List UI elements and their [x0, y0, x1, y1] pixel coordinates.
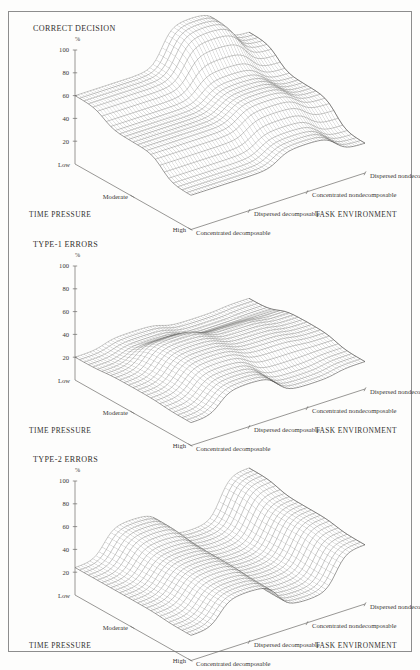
y-axis-tick-label: 80 — [62, 69, 69, 76]
y-axis-tick-label: 60 — [62, 92, 69, 99]
figure-frame: CORRECT DECISION % 10080604020LowModerat… — [8, 11, 412, 652]
y-axis-tick-label: 80 — [62, 500, 69, 507]
y-axis-tick-label: 40 — [62, 115, 69, 122]
time-pressure-axis-title: TIME PRESSURE — [29, 426, 91, 435]
y-axis-tick-label: 100 — [59, 46, 70, 53]
task-environment-tick-label: Concentrated nondecomposable — [312, 407, 396, 414]
chart-panel-correct-decision: CORRECT DECISION % 10080604020LowModerat… — [9, 12, 413, 227]
task-environment-tick-label: Concentrated nondecomposable — [312, 191, 396, 198]
time-pressure-axis-title: TIME PRESSURE — [29, 641, 91, 650]
surface-plot: 10080604020LowModerateHighConcentrated d… — [9, 12, 413, 227]
time-pressure-axis-title: TIME PRESSURE — [29, 210, 91, 219]
task-environment-tick-label: Dispersed nondecomposable — [370, 388, 420, 395]
y-axis-tick-label: 20 — [62, 354, 69, 361]
time-pressure-tick-label: Low — [58, 592, 70, 599]
y-axis-tick-label: 40 — [62, 331, 69, 338]
time-pressure-tick-label: Low — [58, 377, 70, 384]
y-axis-tick-label: 60 — [62, 523, 69, 530]
time-pressure-tick-label: Moderate — [103, 409, 128, 416]
time-pressure-tick-label: High — [173, 657, 187, 664]
task-environment-tick-label: Concentrated nondecomposable — [312, 622, 396, 629]
task-environment-tick-label: Dispersed nondecomposable — [370, 172, 420, 179]
task-environment-tick-label: Dispersed decomposable — [254, 641, 320, 648]
y-axis-tick-label: 60 — [62, 308, 69, 315]
y-axis-tick-label: 20 — [62, 138, 69, 145]
task-environment-axis-title: TASK ENVIRONMENT — [315, 426, 397, 435]
y-axis-tick-label: 100 — [59, 477, 70, 484]
time-pressure-tick-label: Low — [58, 161, 70, 168]
task-environment-tick-label: Concentrated decomposable — [196, 660, 271, 667]
task-environment-axis-title: TASK ENVIRONMENT — [315, 641, 397, 650]
y-axis-tick-label: 80 — [62, 285, 69, 292]
y-axis-tick-label: 40 — [62, 546, 69, 553]
y-axis-tick-label: 20 — [62, 569, 69, 576]
chart-panel-type-2-errors: TYPE-2 ERRORS % 10080604020LowModerateHi… — [9, 443, 413, 658]
time-pressure-tick-label: Moderate — [103, 193, 128, 200]
task-environment-tick-label: Dispersed decomposable — [254, 426, 320, 433]
task-environment-tick-label: Dispersed nondecomposable — [370, 603, 420, 610]
time-pressure-tick-label: Moderate — [103, 624, 128, 631]
task-environment-tick-label: Dispersed decomposable — [254, 210, 320, 217]
surface-plot: 10080604020LowModerateHighConcentrated d… — [9, 443, 413, 658]
y-axis-tick-label: 100 — [59, 262, 70, 269]
task-environment-axis-title: TASK ENVIRONMENT — [315, 210, 397, 219]
figure-page: CORRECT DECISION % 10080604020LowModerat… — [0, 0, 420, 670]
surface-plot: 10080604020LowModerateHighConcentrated d… — [9, 228, 413, 443]
chart-panel-type-1-errors: TYPE-1 ERRORS % 10080604020LowModerateHi… — [9, 228, 413, 443]
